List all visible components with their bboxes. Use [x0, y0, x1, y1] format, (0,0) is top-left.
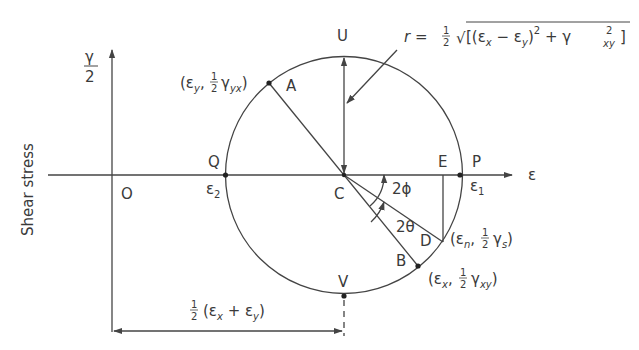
label-a: A: [286, 77, 297, 95]
label-2theta: 2θ: [396, 218, 415, 236]
svg-text:2: 2: [211, 83, 217, 94]
label-eps1: ε1: [470, 177, 484, 197]
svg-text:(εn,: (εn,: [450, 230, 475, 250]
origin-label: O: [121, 185, 133, 203]
svg-text:xy: xy: [602, 38, 616, 49]
svg-text:2: 2: [482, 239, 488, 250]
shear-stress-label: Shear stress: [19, 143, 37, 236]
coord-label-d: (εn, 1 2 γs): [450, 227, 513, 250]
point-q-dot: [223, 172, 228, 177]
y-axis-label-top: γ: [85, 48, 94, 66]
coord-label-b: (εx, 1 2 γxy): [428, 267, 498, 290]
y-axis-label-bottom: 2: [85, 68, 95, 86]
label-p: P: [472, 153, 481, 171]
svg-text:1: 1: [191, 299, 197, 310]
center-dimension-label: 1 2 (εx + εy): [190, 299, 265, 322]
svg-text:(εx + εy): (εx + εy): [203, 302, 265, 322]
point-p-dot: [457, 172, 462, 177]
svg-text:1: 1: [443, 25, 449, 36]
svg-text:γxy): γxy): [471, 270, 498, 290]
svg-text:√: √: [456, 29, 466, 47]
point-b-dot: [415, 263, 420, 268]
svg-text:1: 1: [460, 267, 466, 278]
svg-text:2: 2: [460, 279, 466, 290]
svg-text:r =: r =: [404, 28, 428, 46]
angle-2theta-arc: [371, 202, 384, 222]
svg-text:]: ]: [620, 28, 626, 46]
label-u: U: [337, 27, 348, 45]
point-a-dot: [266, 80, 271, 85]
label-2phi: 2ϕ: [392, 180, 412, 198]
coord-label-a: (εy, 1 2 γyx): [180, 71, 248, 94]
x-axis-label: ε: [528, 166, 536, 184]
point-v-dot: [341, 293, 346, 298]
label-e: E: [438, 153, 447, 171]
label-eps2: ε2: [206, 180, 220, 200]
label-q: Q: [208, 153, 220, 171]
label-d: D: [420, 232, 432, 250]
svg-text:2: 2: [606, 25, 612, 36]
label-b: B: [396, 252, 406, 270]
svg-text:2: 2: [443, 37, 449, 48]
svg-text:1: 1: [482, 227, 488, 238]
svg-text:γs): γs): [493, 230, 513, 250]
svg-text:2: 2: [191, 311, 197, 322]
point-c-dot: [342, 173, 346, 177]
svg-text:1: 1: [211, 71, 217, 82]
svg-text:(εx,: (εx,: [428, 270, 453, 290]
radius-formula: r = 1 2 √ [(εx − εy)2 + γ 2 xy ]: [404, 22, 630, 49]
svg-text:γyx): γyx): [221, 74, 248, 94]
label-c: C: [334, 185, 344, 203]
svg-text:[(εx − εy)2 + γ: [(εx − εy)2 + γ: [466, 25, 571, 48]
radius-pointer-arrow: [347, 50, 397, 103]
svg-text:(εy,: (εy,: [180, 74, 205, 94]
mohr-circle-diagram: ε γ 2 Shear stress O U A Q C E P D B V ε…: [0, 0, 639, 350]
label-v: V: [338, 273, 349, 291]
